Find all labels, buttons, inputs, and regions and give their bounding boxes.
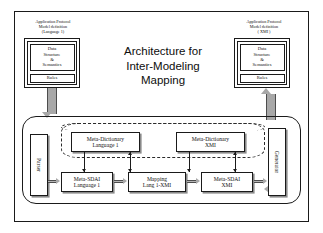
mapping-lang1-xmi-box: Mapping Lang 1-XMI: [128, 172, 186, 192]
left-flow-bar: [47, 88, 57, 114]
meta-dictionary-language1-box: Meta-Dictionary Language 1: [71, 132, 140, 152]
generator-label: Generator: [274, 151, 280, 173]
connector-arrow-up-1-icon: [128, 152, 132, 155]
page-title: Architecture for Inter-Modeling Mapping: [93, 44, 233, 88]
connector-arrow-up-2-icon: [233, 152, 237, 155]
right-model-caption: Application Protocol Model definition ( …: [228, 19, 300, 35]
flow-arrow-3-icon: [196, 178, 200, 184]
connector-arrow-3-icon: [187, 169, 191, 172]
flow-arrow-1-icon: [56, 178, 60, 184]
left-model-box: Data Structure & Semantics Rules: [24, 38, 80, 88]
meta-sdai-xmi-box: Meta-SDAI XMI: [201, 172, 253, 192]
meta-dictionary-xmi-box: Meta-Dictionary XMI: [176, 132, 245, 152]
parser-label: Parser: [36, 158, 42, 172]
meta-dictionary-zone-top-ellipse: [61, 123, 265, 131]
left-model-caption: Application Protocol Model definition (L…: [18, 19, 88, 35]
generator-box: Generator: [268, 128, 286, 196]
parser-box: Parser: [30, 134, 48, 196]
right-data-structure-cell: Data Structure & Semantics: [240, 44, 285, 71]
diagram-canvas: Architecture for Inter-Modeling Mapping …: [0, 0, 323, 233]
flow-arrow-4-icon: [263, 178, 267, 184]
right-flow-arrowhead-up-icon: [261, 88, 271, 94]
right-model-box: Data Structure & Semantics Rules: [234, 38, 290, 88]
left-data-structure-cell: Data Structure & Semantics: [30, 44, 75, 71]
generator-return-arrow-icon: [264, 186, 268, 192]
left-rules-cell: Rules: [30, 74, 75, 83]
meta-sdai-language1-box: Meta-SDAI Language 1: [61, 172, 113, 192]
flow-arrow-2-icon: [123, 178, 127, 184]
right-rules-cell: Rules: [240, 74, 285, 83]
